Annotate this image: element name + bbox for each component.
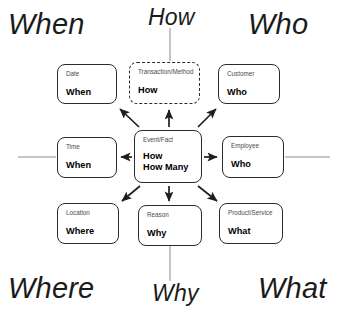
node-date-value: When xyxy=(66,87,109,98)
node-time: Time When xyxy=(57,137,117,178)
node-date-title: Date xyxy=(66,71,109,78)
node-event-fact-title: Event/Fact xyxy=(143,137,194,144)
node-location-title: Location xyxy=(66,210,111,217)
quadrant-label-why: Why xyxy=(152,280,199,307)
node-time-value: When xyxy=(66,160,109,171)
node-event-fact-value-line2: How Many xyxy=(143,162,194,173)
arrow-event-to-date xyxy=(120,109,139,127)
arrow-event-to-customer xyxy=(198,109,216,127)
node-location: Location Where xyxy=(57,203,119,244)
node-employee-title: Employee xyxy=(231,143,276,150)
node-event-fact-value: How How Many xyxy=(143,151,194,172)
quadrant-label-how: How xyxy=(148,4,195,31)
node-transaction-method: Transaction/Method How xyxy=(129,62,200,104)
node-event-fact-value-line1: How xyxy=(143,151,194,162)
node-event-fact: Event/Fact How How Many xyxy=(134,130,202,183)
node-product-service: Product/Service What xyxy=(219,203,283,244)
node-date: Date When xyxy=(57,64,117,104)
node-customer: Customer Who xyxy=(218,64,280,104)
node-product-title: Product/Service xyxy=(228,210,275,217)
quadrant-label-where: Where xyxy=(8,272,94,305)
quadrant-label-when: When xyxy=(8,8,85,41)
quadrant-label-who: Who xyxy=(248,8,308,41)
node-reason-value: Why xyxy=(147,228,194,239)
node-time-title: Time xyxy=(66,144,109,151)
node-transaction-value: How xyxy=(138,85,192,96)
node-customer-title: Customer xyxy=(227,71,272,78)
arrow-event-to-product xyxy=(198,186,217,201)
quadrant-label-what: What xyxy=(258,272,327,305)
node-reason: Reason Why xyxy=(138,205,202,246)
node-reason-title: Reason xyxy=(147,212,194,219)
node-location-value: Where xyxy=(66,226,111,237)
node-transaction-title: Transaction/Method xyxy=(138,69,192,76)
node-employee: Employee Who xyxy=(222,136,284,178)
entity-diagram: When How Who Where Why What Date When Tr… xyxy=(0,0,342,322)
node-employee-value: Who xyxy=(231,159,276,170)
node-product-value: What xyxy=(228,226,275,237)
arrow-event-to-location xyxy=(122,186,140,201)
node-customer-value: Who xyxy=(227,87,272,98)
